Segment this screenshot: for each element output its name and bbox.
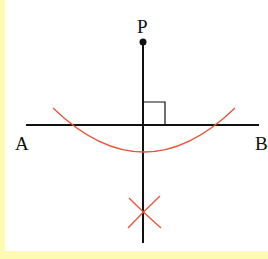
diagram-frame: P A B	[0, 0, 268, 259]
right-angle-marker	[143, 102, 165, 125]
label-p: P	[137, 16, 148, 37]
point-p-dot	[140, 39, 147, 46]
label-b: B	[255, 133, 268, 154]
label-a: A	[15, 133, 29, 154]
geometry-diagram: P A B	[0, 0, 268, 259]
construction-arc-left	[129, 198, 161, 228]
